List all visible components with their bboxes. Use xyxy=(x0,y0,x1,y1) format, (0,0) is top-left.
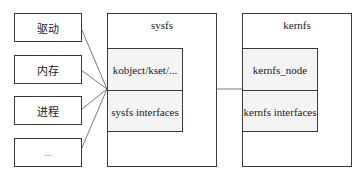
kernfs-title: kernfs xyxy=(243,19,351,31)
sysfs-title: sysfs xyxy=(108,19,216,31)
left-box-process: 进程 xyxy=(14,96,82,125)
left-box-label: 进程 xyxy=(37,103,59,119)
left-box-more: ... xyxy=(14,138,82,167)
sysfs-interfaces-cell: sysfs interfaces xyxy=(108,90,182,132)
kernfs-interfaces-cell: kernfs interfaces xyxy=(243,90,317,132)
left-box-driver: 驱动 xyxy=(14,13,82,42)
left-box-label: ... xyxy=(44,148,53,158)
left-box-label: 驱动 xyxy=(37,20,59,36)
kernfs-box: kernfs kernfs_node kernfs interfaces xyxy=(242,13,352,167)
sysfs-kobject-cell: kobject/kset/... xyxy=(108,49,182,90)
sysfs-inner-box: kobject/kset/... sysfs interfaces xyxy=(107,48,183,132)
left-box-memory: 内存 xyxy=(14,55,82,84)
left-box-label: 内存 xyxy=(37,62,59,78)
kernfs-inner-box: kernfs_node kernfs interfaces xyxy=(242,48,318,132)
sysfs-box: sysfs kobject/kset/... sysfs interfaces xyxy=(107,13,217,167)
kernfs-node-cell: kernfs_node xyxy=(243,49,317,90)
